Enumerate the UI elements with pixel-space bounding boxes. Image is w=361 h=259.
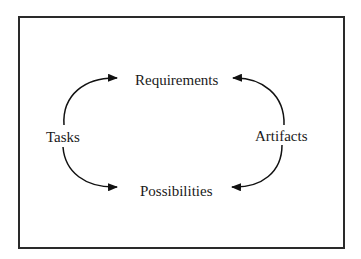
arrow-artifacts-to-possibilities (232, 145, 282, 187)
node-possibilities: Possibilities (140, 184, 213, 199)
arrow-tasks-to-requirements (64, 78, 117, 125)
node-tasks: Tasks (46, 130, 80, 145)
arrow-tasks-to-possibilities (63, 147, 117, 187)
node-requirements: Requirements (135, 73, 218, 88)
node-artifacts: Artifacts (255, 129, 307, 144)
arrow-artifacts-to-requirements (233, 78, 284, 125)
